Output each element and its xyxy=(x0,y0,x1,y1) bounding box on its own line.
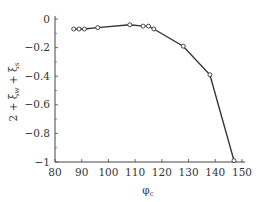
data-point-marker xyxy=(208,73,212,77)
data-point-marker xyxy=(82,27,86,31)
data-point-marker xyxy=(141,24,145,28)
data-point-marker xyxy=(147,24,151,28)
data-point-marker xyxy=(181,44,185,48)
series-layer xyxy=(72,23,236,163)
data-point-marker xyxy=(128,23,132,27)
y-tick-label: −0.2 xyxy=(25,41,51,53)
x-tick-label: 90 xyxy=(75,166,88,178)
data-point-marker xyxy=(72,27,76,31)
y-axis-label: 2 + ξw + ξs xyxy=(7,62,21,121)
x-tick-label: 130 xyxy=(179,166,199,178)
x-axis: 8090100110120130140150 xyxy=(48,159,252,178)
line-chart: 0−0.2−0.4−0.6−0.8−1 80901001101201301401… xyxy=(0,0,261,202)
x-tick-label: 100 xyxy=(98,166,118,178)
data-point-marker xyxy=(152,27,156,31)
x-tick-label: 150 xyxy=(232,166,252,178)
x-axis-label: φc xyxy=(142,184,153,198)
y-tick-label: −0.8 xyxy=(25,127,51,139)
y-tick-label: −0.4 xyxy=(25,70,51,82)
y-tick-label: 0 xyxy=(43,13,50,25)
x-tick-label: 120 xyxy=(152,166,172,178)
data-point-marker xyxy=(232,159,236,163)
series-line xyxy=(74,25,234,161)
x-tick-label: 80 xyxy=(48,166,61,178)
data-point-marker xyxy=(77,27,81,31)
y-axis: 0−0.2−0.4−0.6−0.8−1 xyxy=(25,13,59,168)
data-point-marker xyxy=(96,26,100,30)
x-tick-label: 110 xyxy=(125,166,145,178)
y-tick-label: −0.6 xyxy=(25,98,51,110)
x-tick-label: 140 xyxy=(205,166,225,178)
